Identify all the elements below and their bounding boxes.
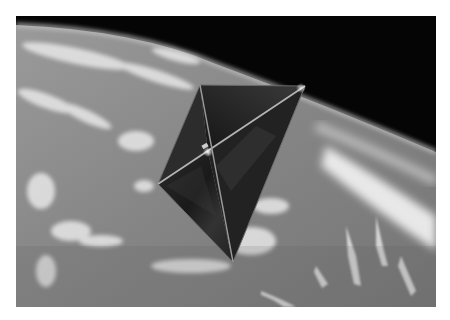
scene	[16, 16, 436, 307]
solar-sail-photo: Square solar sail spacecraft with diagon…	[16, 16, 436, 307]
